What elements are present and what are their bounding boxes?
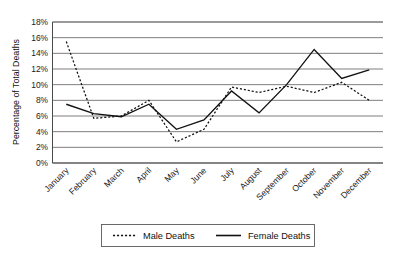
y-tick-label: 16% [31,33,48,43]
chart-container: Percentage of Total Deaths 18% 16% 14% 1… [0,0,411,259]
chart-background [0,0,411,259]
y-axis-title: Percentage of Total Deaths [11,38,21,145]
y-tick-label: 14% [31,48,48,58]
y-tick-label: 4% [36,127,49,137]
y-tick-label: 8% [36,95,49,105]
y-tick-label: 12% [31,64,48,74]
y-tick-label: 6% [36,111,49,121]
y-tick-label: 2% [36,142,49,152]
chart-legend: Male Deaths Female Deaths [102,225,315,247]
line-chart: Percentage of Total Deaths 18% 16% 14% 1… [0,0,411,259]
y-tick-label: 10% [31,80,48,90]
y-tick-label: 0% [36,158,49,168]
legend-label-male-deaths: Male Deaths [143,231,195,241]
legend-label-female-deaths: Female Deaths [248,231,311,241]
y-tick-label: 18% [31,17,48,27]
